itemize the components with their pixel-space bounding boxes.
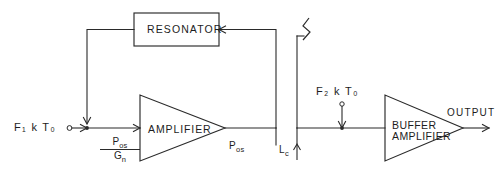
fraction-numerator: Pos [100,136,140,148]
buffer-amplifier-label: BUFFER AMPLIFIER [392,120,451,141]
resonator-label: RESONATOR [147,23,222,35]
coupling-loss-label: Lc [279,144,289,155]
resonator-drive-wire [219,30,276,129]
feedback-wire [87,30,134,124]
oscillator-block-diagram: RESONATOR F₁ k T₀ Pos Gn AMPLIFIER Pos L… [0,0,496,183]
diagram-canvas [0,0,496,183]
oscillator-power-label: Pos [229,140,244,151]
buffer-amplifier-label-line2: AMPLIFIER [392,131,451,142]
buffer-amplifier-label-line1: BUFFER [392,120,451,131]
noise-to-gain-fraction: Pos Gn [100,136,140,162]
summing-junction-2-icon [340,126,344,130]
fraction-denominator: Gn [100,150,140,162]
input-noise-2-label: F₂ k T₀ [316,85,359,97]
amplifier-label: AMPLIFIER [148,123,212,135]
input-terminal-node-icon [67,126,72,131]
zigzag-break-icon [303,18,310,40]
noise-2-terminal-node-icon [340,102,344,106]
output-label: OUTPUT [447,107,495,118]
input-noise-1-label: F₁ k T₀ [14,121,56,133]
